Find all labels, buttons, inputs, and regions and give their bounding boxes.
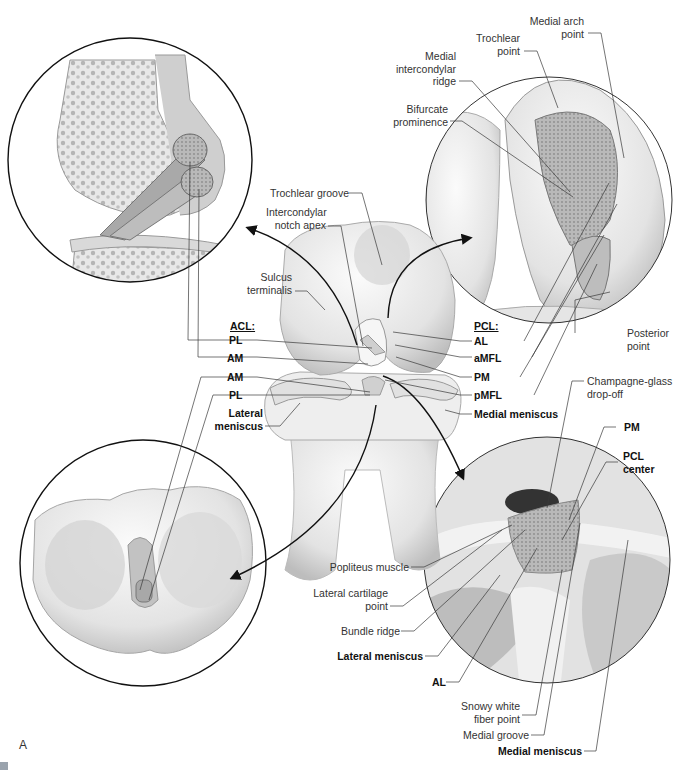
label-lateral-cartilage-point: Lateral cartilage point — [308, 587, 388, 612]
label-line: Sulcus — [238, 271, 292, 284]
label-snowy-white-fiber-point: Snowy white fiber point — [458, 700, 520, 725]
label-lateral-meniscus-center: Lateral meniscus — [208, 407, 263, 432]
label-line: intercondylar — [380, 63, 456, 76]
label-line: Lateral — [208, 407, 263, 420]
label-acl-pl-tibial: PL — [229, 389, 242, 402]
label-acl-header: ACL: — [230, 320, 255, 333]
label-line: point — [464, 45, 520, 58]
label-pcl-center: PCL center — [623, 450, 655, 475]
label-line: notch apex — [266, 219, 326, 232]
label-pcl-pm: PM — [474, 371, 490, 384]
label-line: terminalis — [238, 284, 292, 297]
label-popliteus-muscle: Popliteus muscle — [312, 561, 409, 574]
label-acl-pl-femoral: PL — [229, 334, 242, 347]
label-bundle-ridge: Bundle ridge — [336, 625, 400, 638]
label-line: point — [308, 600, 388, 613]
label-medial-meniscus-center: Medial meniscus — [474, 408, 558, 421]
label-al-tibial: AL — [432, 676, 446, 689]
label-pcl-amfl: aMFL — [474, 352, 501, 365]
label-pcl-pmfl: pMFL — [474, 389, 502, 402]
inset-lateral-sagittal — [0, 30, 260, 300]
label-line: PCL — [623, 450, 655, 463]
label-champagne-glass-drop-off: Champagne-glass drop-off — [587, 375, 672, 400]
label-posterior-point: Posterior point — [627, 327, 669, 352]
label-line: Medial arch — [520, 15, 584, 28]
label-line: point — [520, 28, 584, 41]
central-knee — [265, 222, 461, 581]
label-line: point — [627, 340, 669, 353]
label-acl-am-femoral: AM — [227, 352, 243, 365]
panel-letter: A — [19, 738, 27, 752]
label-bifurcate-prominence: Bifurcate prominence — [390, 103, 448, 128]
label-line: center — [623, 463, 655, 476]
label-medial-meniscus-tibial: Medial meniscus — [483, 745, 582, 758]
label-line: ridge — [380, 75, 456, 88]
label-pcl-al: AL — [474, 335, 488, 348]
label-medial-arch-point: Medial arch point — [520, 15, 584, 40]
label-line: meniscus — [208, 420, 263, 433]
label-lateral-meniscus-tibial: Lateral meniscus — [326, 650, 423, 663]
label-line: Intercondylar — [266, 206, 326, 219]
label-line: Lateral cartilage — [308, 587, 388, 600]
label-line: fiber point — [458, 713, 520, 726]
label-line: Medial — [380, 50, 456, 63]
label-line: Snowy white — [458, 700, 520, 713]
label-line: Posterior — [627, 327, 669, 340]
inset-pcl-femoral — [420, 70, 680, 330]
label-pcl-header: PCL: — [474, 320, 499, 333]
label-sulcus-terminalis: Sulcus terminalis — [238, 271, 292, 296]
label-medial-groove: Medial groove — [458, 729, 529, 742]
image-corner-icon — [0, 762, 8, 770]
label-acl-am-tibial: AM — [227, 371, 243, 384]
inset-tibial-plateau — [15, 435, 275, 695]
label-trochlear-groove: Trochlear groove — [270, 187, 349, 200]
label-trochlear-point: Trochlear point — [464, 32, 520, 57]
label-medial-intercondylar-ridge: Medial intercondylar ridge — [380, 50, 456, 88]
label-line: Champagne-glass — [587, 375, 672, 388]
label-line: Bifurcate — [390, 103, 448, 116]
label-line: Trochlear — [464, 32, 520, 45]
label-line: prominence — [390, 116, 448, 129]
label-pm-tibial: PM — [624, 421, 640, 434]
label-line: drop-off — [587, 388, 672, 401]
label-intercondylar-notch-apex: Intercondylar notch apex — [266, 206, 326, 231]
